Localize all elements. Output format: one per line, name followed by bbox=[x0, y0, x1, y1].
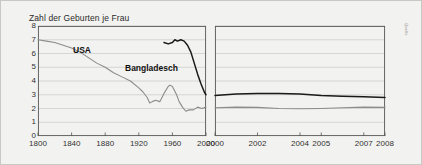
x-axis-tick-label: 1880 bbox=[96, 140, 114, 148]
chart-figure: Zahl der Geburten je Frau 876543210 1800… bbox=[0, 0, 422, 165]
right-panel-recent bbox=[215, 26, 385, 136]
x-axis-tick-label: 1920 bbox=[130, 140, 148, 148]
y-axis-tick-label: 2 bbox=[32, 105, 36, 113]
left-panel-historic bbox=[38, 26, 206, 136]
x-axis-tick-label: 2004 bbox=[291, 140, 309, 148]
x-axis-tick-label: 2005 bbox=[312, 140, 330, 148]
y-axis-tick-labels: 876543210 bbox=[23, 26, 36, 136]
x-axis-tick-label: 1960 bbox=[163, 140, 181, 148]
x-axis-tick-label: 1840 bbox=[63, 140, 81, 148]
x-axis-tick-labels-left: 180018401880192019602000 bbox=[38, 140, 206, 152]
x-axis-tick-label: 2002 bbox=[249, 140, 267, 148]
chart-title: Zahl der Geburten je Frau bbox=[29, 13, 129, 23]
y-axis-tick-label: 8 bbox=[32, 22, 36, 30]
series-label-bangladesch: Bangladesch bbox=[125, 63, 178, 73]
left-panel-plot bbox=[38, 26, 206, 136]
y-axis-tick-label: 6 bbox=[32, 50, 36, 58]
source-credit-text: Quelle bbox=[404, 23, 409, 36]
x-axis-tick-label: 2008 bbox=[376, 140, 394, 148]
x-axis-tick-label: 2007 bbox=[355, 140, 373, 148]
y-axis-tick-label: 5 bbox=[32, 63, 36, 71]
x-axis-tick-label: 2000 bbox=[206, 140, 224, 148]
y-axis-tick-label: 4 bbox=[32, 77, 36, 85]
y-axis-tick-label: 1 bbox=[32, 118, 36, 126]
y-axis-tick-label: 3 bbox=[32, 91, 36, 99]
y-axis-tick-label: 7 bbox=[32, 36, 36, 44]
right-panel-plot bbox=[215, 26, 385, 136]
x-axis-tick-labels-right: 200020022004200520072008 bbox=[215, 140, 385, 152]
series-label-usa: USA bbox=[73, 45, 91, 55]
x-axis-tick-label: 1800 bbox=[29, 140, 47, 148]
